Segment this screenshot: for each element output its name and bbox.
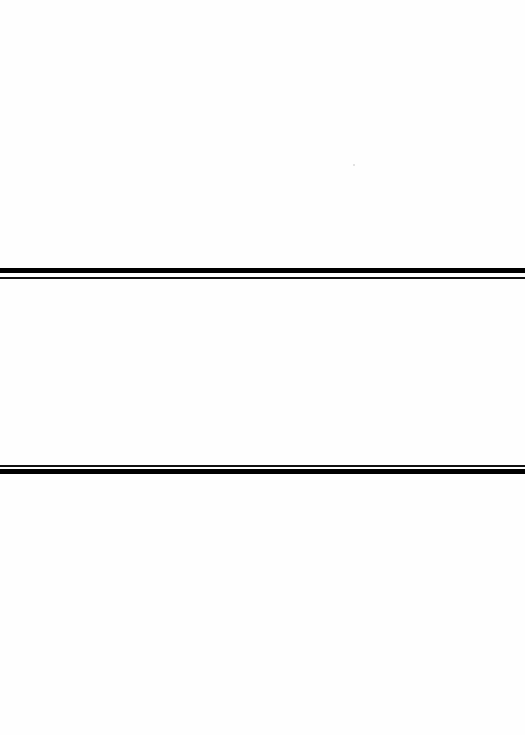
upper-thick-rule	[0, 268, 525, 273]
upper-thin-rule	[0, 277, 525, 279]
scan-speck	[353, 164, 355, 166]
document-page	[0, 0, 525, 735]
lower-thick-rule	[0, 469, 525, 474]
lower-thin-rule	[0, 465, 525, 467]
